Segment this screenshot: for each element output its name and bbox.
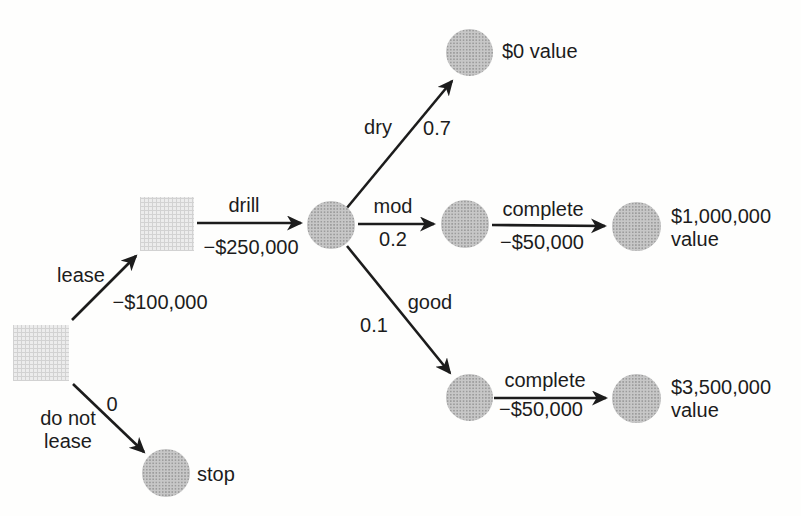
label-drill-action-line: drill bbox=[228, 194, 259, 217]
label-lease-action-line: lease bbox=[57, 264, 105, 287]
label-drill-action: drill bbox=[228, 194, 259, 217]
label-mod-outcome-line: mod bbox=[374, 195, 413, 218]
label-mod-probability: 0.2 bbox=[379, 228, 407, 251]
label-drill-cost-line: −$250,000 bbox=[203, 236, 298, 259]
label-mod-value: $1,000,000value bbox=[671, 205, 771, 251]
label-complete-good-cost-line: −$50,000 bbox=[499, 398, 583, 421]
label-dry-probability: 0.7 bbox=[423, 117, 451, 140]
label-dry-value-line: $0 value bbox=[502, 40, 578, 63]
label-do-not-lease-value: 0 bbox=[106, 393, 117, 416]
edge-dry bbox=[346, 81, 452, 209]
node-terminal-dry bbox=[446, 29, 493, 76]
label-dry-probability-line: 0.7 bbox=[423, 117, 451, 140]
label-lease-action: lease bbox=[57, 264, 105, 287]
label-dry-outcome-line: dry bbox=[364, 116, 392, 139]
label-good-value-line: value bbox=[671, 399, 771, 422]
label-do-not-lease-action-line: lease bbox=[40, 430, 96, 453]
node-chance-drill-outcome bbox=[307, 201, 355, 249]
node-decision-drill bbox=[140, 197, 194, 251]
edge-complete-mod bbox=[492, 225, 605, 226]
label-do-not-lease-action: do notlease bbox=[40, 407, 96, 453]
edge-layer bbox=[72, 81, 606, 452]
node-terminal-good bbox=[612, 374, 661, 423]
label-good-value-line: $3,500,000 bbox=[671, 376, 771, 399]
label-complete-good-action: complete bbox=[504, 369, 585, 392]
node-terminal-mod bbox=[612, 202, 661, 251]
node-decision-root bbox=[13, 325, 69, 381]
label-good-probability: 0.1 bbox=[360, 314, 388, 337]
label-mod-value-line: $1,000,000 bbox=[671, 205, 771, 228]
decision-tree-canvas: lease−$100,0000do notleasestopdrill−$250… bbox=[0, 0, 801, 516]
label-good-outcome-line: good bbox=[408, 291, 453, 314]
label-dry-outcome: dry bbox=[364, 116, 392, 139]
label-stop-outcome-line: stop bbox=[197, 463, 235, 486]
label-do-not-lease-value-line: 0 bbox=[106, 393, 117, 416]
label-lease-cost: −$100,000 bbox=[112, 291, 207, 314]
node-terminal-stop bbox=[142, 449, 190, 497]
label-complete-mod-cost-line: −$50,000 bbox=[500, 231, 584, 254]
label-good-outcome: good bbox=[408, 291, 453, 314]
node-chance-mod bbox=[441, 200, 489, 248]
label-good-probability-line: 0.1 bbox=[360, 314, 388, 337]
label-complete-mod-cost: −$50,000 bbox=[500, 231, 584, 254]
edges-svg bbox=[0, 0, 801, 516]
label-lease-cost-line: −$100,000 bbox=[112, 291, 207, 314]
label-good-value: $3,500,000value bbox=[671, 376, 771, 422]
label-mod-value-line: value bbox=[671, 228, 771, 251]
label-mod-outcome: mod bbox=[374, 195, 413, 218]
label-complete-mod-action-line: complete bbox=[502, 198, 583, 221]
label-stop-outcome: stop bbox=[197, 463, 235, 486]
label-dry-value: $0 value bbox=[502, 40, 578, 63]
label-complete-good-cost: −$50,000 bbox=[499, 398, 583, 421]
node-chance-good bbox=[446, 374, 493, 421]
label-mod-probability-line: 0.2 bbox=[379, 228, 407, 251]
label-complete-good-action-line: complete bbox=[504, 369, 585, 392]
label-complete-mod-action: complete bbox=[502, 198, 583, 221]
label-drill-cost: −$250,000 bbox=[203, 236, 298, 259]
label-do-not-lease-action-line: do not bbox=[40, 407, 96, 430]
